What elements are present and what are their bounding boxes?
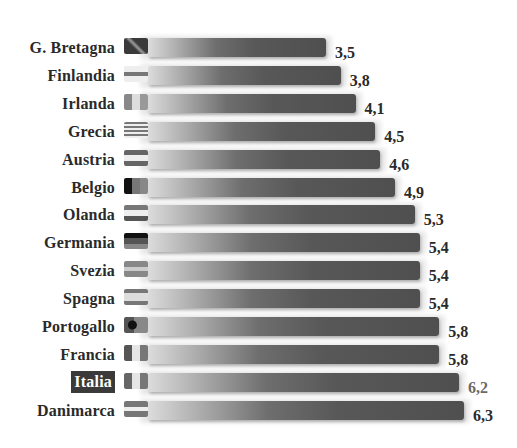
bar — [148, 122, 375, 141]
greece-flag-icon — [124, 122, 148, 138]
spain-flag-icon — [124, 289, 148, 305]
portugal-flag-icon — [124, 317, 148, 333]
bar-row: Belgio4,9 — [0, 175, 517, 203]
value-label: 5,4 — [429, 239, 449, 257]
bar-row: G. Bretagna3,5 — [0, 35, 517, 63]
value-label: 5,4 — [429, 295, 449, 313]
bar-chart: G. Bretagna3,5Finlandia3,8Irlanda4,1Grec… — [0, 0, 517, 448]
category-label: Finlandia — [47, 66, 115, 86]
value-label: 6,3 — [473, 407, 493, 425]
category-label: Germania — [44, 233, 115, 253]
bar-row: Spagna5,4 — [0, 286, 517, 314]
belgium-flag-icon — [124, 178, 148, 194]
category-label: Olanda — [63, 205, 115, 225]
category-label: Irlanda — [62, 94, 115, 114]
value-label: 3,8 — [350, 72, 370, 90]
bar-row: Portogallo5,8 — [0, 314, 517, 342]
bar — [148, 261, 420, 280]
bar-row: Francia5,8 — [0, 342, 517, 370]
value-label: 6,2 — [468, 379, 488, 397]
category-label: Belgio — [71, 178, 115, 198]
value-label: 4,9 — [404, 184, 424, 202]
category-label: Svezia — [70, 261, 115, 281]
bar — [148, 66, 341, 85]
bar — [148, 233, 420, 252]
bar — [148, 150, 380, 169]
italy-flag-icon — [124, 373, 148, 389]
value-label: 4,1 — [365, 100, 385, 118]
category-label: Francia — [60, 345, 115, 365]
value-label: 4,6 — [389, 156, 409, 174]
bar — [148, 38, 326, 57]
category-label-highlighted: Italia — [71, 371, 115, 393]
germany-flag-icon — [124, 233, 148, 249]
ireland-flag-icon — [124, 94, 148, 110]
value-label: 5,8 — [448, 351, 468, 369]
bar — [148, 373, 459, 392]
bar-row: Irlanda4,1 — [0, 91, 517, 119]
sweden-flag-icon — [124, 261, 148, 277]
category-label: Danimarca — [37, 401, 115, 421]
bar — [148, 317, 439, 336]
netherlands-flag-icon — [124, 205, 148, 221]
bar — [148, 94, 356, 113]
bar-row: Grecia4,5 — [0, 119, 517, 147]
uk-flag-icon — [124, 38, 148, 54]
value-label: 5,3 — [424, 211, 444, 229]
austria-flag-icon — [124, 150, 148, 166]
bar — [148, 401, 464, 420]
bar — [148, 345, 439, 364]
bar-row: Germania5,4 — [0, 230, 517, 258]
category-label: Austria — [62, 150, 115, 170]
value-label: 4,5 — [384, 128, 404, 146]
finland-flag-icon — [124, 66, 148, 82]
bar-row: Olanda5,3 — [0, 202, 517, 230]
france-flag-icon — [124, 345, 148, 361]
category-label: Portogallo — [42, 317, 115, 337]
category-label: Grecia — [68, 122, 115, 142]
value-label: 5,8 — [448, 323, 468, 341]
denmark-flag-icon — [124, 401, 148, 417]
bar — [148, 205, 415, 224]
bar — [148, 289, 420, 308]
value-label: 3,5 — [335, 44, 355, 62]
category-label: G. Bretagna — [30, 38, 115, 58]
bar-row: Austria4,6 — [0, 147, 517, 175]
bar-row: Danimarca6,3 — [0, 398, 517, 426]
bar-row: Finlandia3,8 — [0, 63, 517, 91]
bar-row: Svezia5,4 — [0, 258, 517, 286]
bar-row: Italia6,2 — [0, 370, 517, 398]
value-label: 5,4 — [429, 267, 449, 285]
bar — [148, 178, 395, 197]
category-label: Spagna — [63, 289, 115, 309]
